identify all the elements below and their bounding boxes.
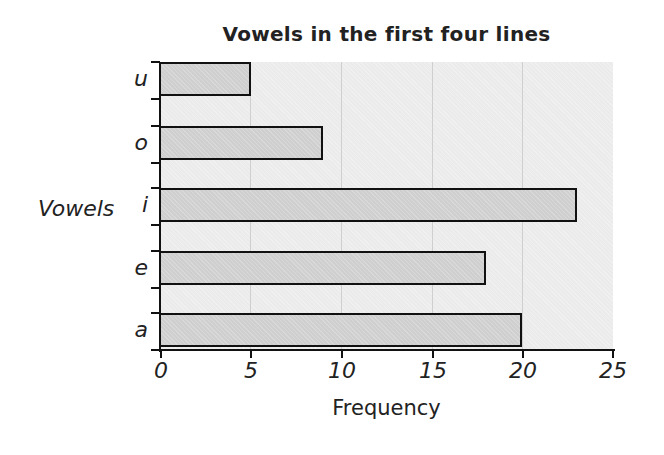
x-tick	[160, 350, 162, 358]
y-tick	[151, 125, 160, 127]
bar-e	[160, 251, 486, 285]
x-tick	[612, 350, 614, 358]
x-tick-label: 20	[498, 358, 548, 383]
x-tick-label: 0	[136, 358, 186, 383]
y-tick	[151, 250, 160, 252]
x-tick-label: 10	[317, 358, 367, 383]
x-axis-title: Frequency	[160, 396, 613, 420]
bar-o	[160, 126, 323, 160]
x-tick-label: 5	[226, 358, 276, 383]
plot-area	[160, 62, 613, 350]
bar-i	[160, 188, 577, 222]
x-tick-label: 15	[408, 358, 458, 383]
y-category-label: a	[120, 317, 148, 342]
y-tick	[151, 61, 160, 63]
y-category-label: o	[120, 130, 148, 155]
bar-u	[160, 62, 251, 96]
bar-a	[160, 313, 522, 347]
y-tick	[151, 187, 160, 189]
y-tick	[151, 224, 160, 226]
y-tick	[151, 349, 160, 351]
y-tick	[151, 287, 160, 289]
y-category-label: u	[120, 66, 148, 91]
x-axis	[159, 349, 615, 351]
y-axis	[159, 62, 161, 352]
y-tick	[151, 162, 160, 164]
x-tick	[522, 350, 524, 358]
y-axis-title: Vowels	[38, 196, 114, 221]
x-tick	[250, 350, 252, 358]
y-category-label: i	[120, 192, 148, 217]
y-tick	[151, 98, 160, 100]
x-tick-label: 25	[588, 358, 638, 383]
x-tick	[432, 350, 434, 358]
y-category-label: e	[120, 255, 148, 280]
y-tick	[151, 312, 160, 314]
x-tick	[341, 350, 343, 358]
chart-title: Vowels in the first four lines	[160, 22, 613, 46]
